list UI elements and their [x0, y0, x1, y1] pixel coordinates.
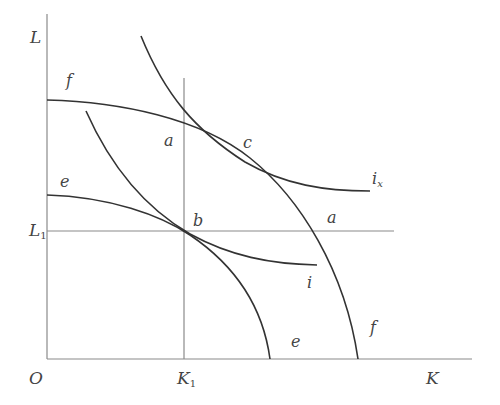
- outer-frontier-label-bottom: f: [369, 318, 379, 337]
- point-a-left-label: a: [164, 131, 174, 150]
- x-axis-label: K: [425, 368, 440, 388]
- lower-isoquant-label: i: [307, 273, 312, 292]
- point-b-label: b: [193, 211, 203, 230]
- economics-diagram: L K O K1 L1 f f e e ix i a c b a: [0, 0, 500, 405]
- upper-isoquant-curve-ix: [141, 36, 370, 191]
- upper-isoquant-label: ix: [372, 169, 383, 189]
- origin-label: O: [29, 368, 43, 388]
- inner-frontier-label-bottom: e: [291, 332, 300, 351]
- l1-label: L1: [28, 220, 47, 241]
- inner-frontier-curve-e: [47, 195, 270, 359]
- point-c-label: c: [243, 133, 252, 152]
- y-axis-label: L: [29, 27, 41, 47]
- k1-label: K1: [176, 368, 196, 389]
- inner-frontier-label-top: e: [60, 172, 69, 191]
- point-a-right-label: a: [327, 208, 337, 227]
- outer-frontier-label-top: f: [65, 71, 75, 90]
